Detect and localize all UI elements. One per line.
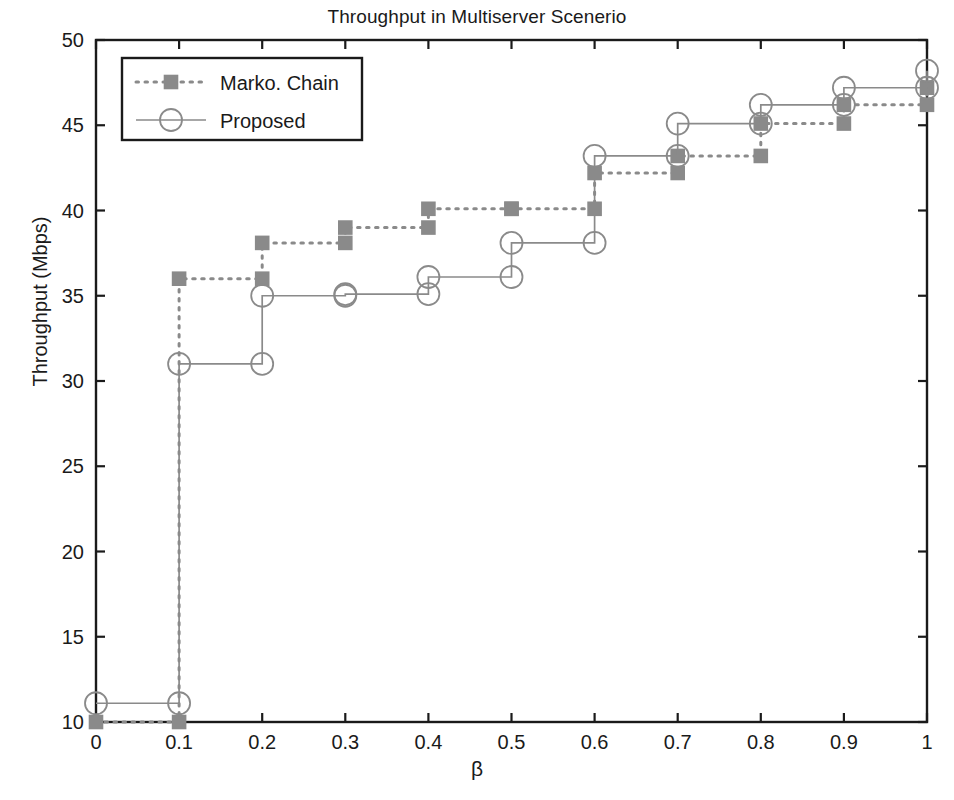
y-tick-label: 30 <box>62 370 84 392</box>
data-point-marker-square <box>754 149 767 162</box>
data-point-marker-square <box>837 117 850 130</box>
data-series-layer <box>85 60 938 729</box>
data-point-marker-square <box>422 202 435 215</box>
y-tick-label: 25 <box>62 455 84 477</box>
legend-label: Marko. Chain <box>220 72 339 94</box>
x-tick-label: 0.4 <box>414 731 442 753</box>
x-tick-label: 0.6 <box>581 731 609 753</box>
series-line <box>96 88 927 722</box>
x-tick-labels: 00.10.20.30.40.50.60.70.80.91 <box>90 731 932 753</box>
data-point-marker-square <box>173 272 186 285</box>
data-series <box>90 81 934 728</box>
chart-legend: Marko. ChainProposed <box>122 58 362 140</box>
data-point-marker-square <box>165 76 178 89</box>
data-point-marker-square <box>339 221 352 234</box>
data-point-marker-square <box>256 272 269 285</box>
data-point-marker-square <box>671 166 684 179</box>
data-point-marker-square <box>921 98 934 111</box>
y-tick-label: 50 <box>62 29 84 51</box>
axes-frame <box>96 40 927 722</box>
y-tick-labels: 101520253035404550 <box>62 29 84 733</box>
data-series <box>85 60 938 715</box>
x-tick-label: 0 <box>90 731 101 753</box>
chart-figure: Throughput in Multiserver Scenerio Throu… <box>0 0 954 800</box>
y-tick-label: 35 <box>62 285 84 307</box>
x-tick-label: 0.5 <box>498 731 526 753</box>
y-tick-marks <box>96 40 927 722</box>
plot-area: 00.10.20.30.40.50.60.70.80.91 1015202530… <box>0 0 954 800</box>
x-tick-marks <box>96 40 927 722</box>
x-tick-label: 0.1 <box>165 731 193 753</box>
data-point-marker-square <box>422 221 435 234</box>
y-tick-label: 40 <box>62 200 84 222</box>
x-tick-label: 0.9 <box>830 731 858 753</box>
series-line <box>96 71 927 704</box>
x-tick-label: 0.2 <box>248 731 276 753</box>
y-tick-label: 10 <box>62 711 84 733</box>
x-tick-label: 0.3 <box>331 731 359 753</box>
x-tick-label: 1 <box>921 731 932 753</box>
data-point-marker-square <box>90 716 103 729</box>
x-tick-label: 0.8 <box>747 731 775 753</box>
data-point-marker-square <box>505 202 518 215</box>
data-point-marker-square <box>173 716 186 729</box>
x-tick-label: 0.7 <box>664 731 692 753</box>
y-tick-label: 15 <box>62 626 84 648</box>
y-tick-label: 20 <box>62 541 84 563</box>
legend-label: Proposed <box>220 110 306 132</box>
data-point-marker-square <box>256 236 269 249</box>
y-tick-label: 45 <box>62 114 84 136</box>
data-point-marker-square <box>339 236 352 249</box>
